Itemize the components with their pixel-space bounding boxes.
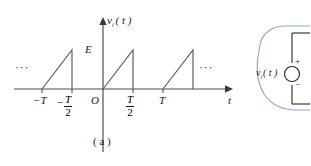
xtick-denominator: 2 [126,107,134,118]
terminal-plus-sign: + [295,57,300,66]
circuit-fragment [285,33,311,104]
figure-container: vi( t ) E O t −T − T 2 T 2 T ··· ··· ( a… [0,0,310,166]
terminal-minus-sign: − [295,80,300,89]
xtick-numerator: T [126,94,134,105]
ellipsis-left: ··· [15,62,30,73]
t-axis-label: t [228,95,231,106]
xtick-numerator: T [64,94,72,105]
v-axis-label-subscript: i [112,22,114,28]
figure-caption: ( a ) [93,136,111,147]
callout-source-label: vi( t ) [256,68,277,81]
callout-source-label-arg: ( t ) [263,67,277,78]
figure-vector-graphics [0,0,310,166]
t-axis [14,85,233,93]
ellipsis-right: ··· [199,62,214,73]
v-axis [99,17,106,152]
xtick-label-T: T [159,95,165,106]
xtick-minus-sign: − [57,97,63,108]
xtick-label-minus-T: −T [33,95,47,106]
xtick-label-T-over-2: T 2 [126,94,134,118]
sawtooth-waveform [42,50,193,89]
xtick-label-minus-T-over-2: − T 2 [64,94,72,118]
origin-label: O [91,95,99,106]
callout-source-label-subscript: i [260,74,262,80]
xtick-denominator: 2 [64,107,72,118]
amplitude-label-E: E [85,44,92,55]
v-axis-label: vi( t ) [107,15,131,28]
v-axis-label-arg: ( t ) [116,14,132,26]
